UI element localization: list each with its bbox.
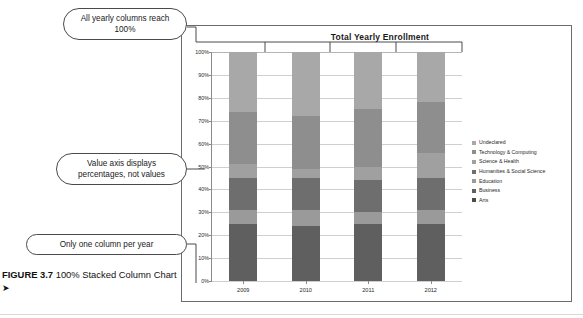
figure-caption: FIGURE 3.7 100% Stacked Column Chart ➤ xyxy=(2,268,182,295)
legend-item[interactable]: Education xyxy=(472,176,568,186)
callout-all-columns-reach-100: All yearly columns reach 100% xyxy=(63,8,187,40)
bar-segment[interactable] xyxy=(292,116,320,169)
bar-segment[interactable] xyxy=(229,164,257,178)
callout-one-column-per-year: Only one column per year xyxy=(26,234,187,255)
bar-segment[interactable] xyxy=(417,153,445,178)
x-axis-label: 2010 xyxy=(275,287,338,293)
y-axis-label: 40% xyxy=(187,186,209,192)
bar-segment[interactable] xyxy=(354,52,382,109)
legend-label: Humanities & Social Science xyxy=(479,169,545,174)
stacked-bar[interactable] xyxy=(417,52,445,281)
bar-segment[interactable] xyxy=(292,226,320,281)
legend-label: Arts xyxy=(479,198,488,203)
legend-label: Undeclared xyxy=(479,140,506,145)
legend-swatch-icon xyxy=(472,179,476,183)
legend-item[interactable]: Humanities & Social Science xyxy=(472,167,568,177)
legend-item[interactable]: Technology & Computing xyxy=(472,148,568,158)
bar-segment[interactable] xyxy=(417,178,445,210)
chart-legend: UndeclaredTechnology & ComputingScience … xyxy=(472,138,568,205)
bar-segment[interactable] xyxy=(292,169,320,178)
x-axis-tick xyxy=(368,281,369,284)
y-axis-label: 80% xyxy=(187,95,209,101)
page-bottom-rule xyxy=(0,314,583,315)
legend-swatch-icon xyxy=(472,189,476,193)
bar-segment[interactable] xyxy=(417,224,445,281)
stacked-bar[interactable] xyxy=(354,52,382,281)
bar-slot: 2009 xyxy=(212,52,275,281)
bar-segment[interactable] xyxy=(417,52,445,102)
x-axis-tick xyxy=(243,281,244,284)
figure-caption-label: FIGURE 3.7 xyxy=(2,269,53,280)
bar-segment[interactable] xyxy=(292,52,320,116)
y-axis-label: 30% xyxy=(187,209,209,215)
y-axis-label: 70% xyxy=(187,118,209,124)
y-axis-label: 20% xyxy=(187,232,209,238)
bar-segment[interactable] xyxy=(354,109,382,166)
bar-segment[interactable] xyxy=(229,178,257,210)
bar-segment[interactable] xyxy=(354,212,382,223)
bar-segment[interactable] xyxy=(292,178,320,210)
figure-caption-arrow: ➤ xyxy=(2,283,10,293)
x-axis-tick xyxy=(306,281,307,284)
legend-label: Business xyxy=(479,188,500,193)
legend-swatch-icon xyxy=(472,141,476,145)
x-axis-label: 2012 xyxy=(400,287,463,293)
bar-segment[interactable] xyxy=(417,102,445,152)
y-axis-label: 100% xyxy=(187,49,209,55)
legend-swatch-icon xyxy=(472,150,476,154)
bar-segment[interactable] xyxy=(354,224,382,281)
bar-segment[interactable] xyxy=(354,180,382,212)
figure-caption-text: 100% Stacked Column Chart xyxy=(56,269,177,280)
bar-segment[interactable] xyxy=(229,52,257,112)
x-axis-label: 2011 xyxy=(337,287,400,293)
bar-group: 2009201020112012 xyxy=(212,52,462,281)
stacked-bar[interactable] xyxy=(292,52,320,281)
bar-segment[interactable] xyxy=(417,210,445,224)
legend-item[interactable]: Arts xyxy=(472,196,568,206)
x-axis-tick xyxy=(431,281,432,284)
legend-item[interactable]: Undeclared xyxy=(472,138,568,148)
plot-area: 0%10%20%30%40%50%60%70%80%90%100% 200920… xyxy=(211,52,462,282)
bar-segment[interactable] xyxy=(229,210,257,224)
chart-title: Total Yearly Enrollment xyxy=(300,32,460,42)
y-axis-label: 50% xyxy=(187,164,209,170)
legend-label: Science & Health xyxy=(479,159,519,164)
bar-slot: 2011 xyxy=(337,52,400,281)
legend-swatch-icon xyxy=(472,170,476,174)
bar-segment[interactable] xyxy=(292,210,320,226)
plot-inner: 0%10%20%30%40%50%60%70%80%90%100% 200920… xyxy=(211,52,462,282)
y-axis-label: 0% xyxy=(187,278,209,284)
legend-swatch-icon xyxy=(472,160,476,164)
legend-item[interactable]: Business xyxy=(472,186,568,196)
bar-segment[interactable] xyxy=(354,167,382,181)
legend-label: Education xyxy=(479,179,502,184)
bar-slot: 2010 xyxy=(275,52,338,281)
stacked-bar[interactable] xyxy=(229,52,257,281)
y-axis-tick xyxy=(209,281,212,282)
bar-segment[interactable] xyxy=(229,112,257,165)
figure-page: Total Yearly Enrollment 0%10%20%30%40%50… xyxy=(0,0,583,318)
bar-slot: 2012 xyxy=(400,52,463,281)
y-axis-label: 90% xyxy=(187,72,209,78)
bar-segment[interactable] xyxy=(229,224,257,281)
legend-label: Technology & Computing xyxy=(479,150,537,155)
legend-item[interactable]: Science & Health xyxy=(472,157,568,167)
callout-value-axis-percentages: Value axis displays percentages, not val… xyxy=(56,153,187,185)
x-axis-label: 2009 xyxy=(212,287,275,293)
legend-swatch-icon xyxy=(472,198,476,202)
y-axis-label: 60% xyxy=(187,141,209,147)
gridline xyxy=(212,281,462,282)
y-axis-label: 10% xyxy=(187,255,209,261)
